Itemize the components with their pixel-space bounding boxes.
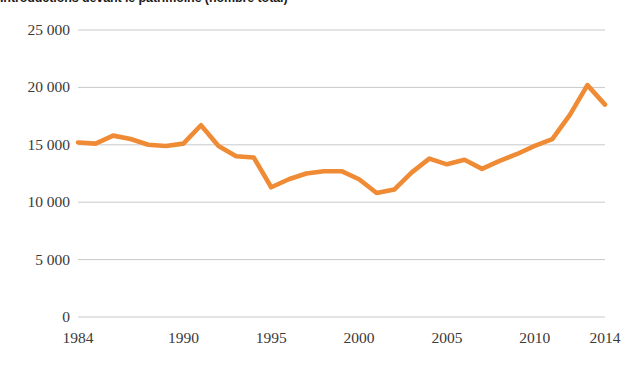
x-axis-tick-labels: 1984199019952000200520102014 [0, 0, 621, 372]
chart-figure: Introductions devant le patrimoine (nomb… [0, 0, 621, 372]
x-axis-tick-label: 2014 [590, 330, 621, 346]
x-axis-tick-label: 1984 [63, 330, 94, 346]
x-axis-tick-label: 2005 [431, 330, 462, 346]
x-axis-tick-label: 2000 [344, 330, 375, 346]
x-axis-tick-label: 2010 [519, 330, 550, 346]
x-axis-tick-label: 1995 [256, 330, 287, 346]
x-axis-tick-label: 1990 [168, 330, 199, 346]
